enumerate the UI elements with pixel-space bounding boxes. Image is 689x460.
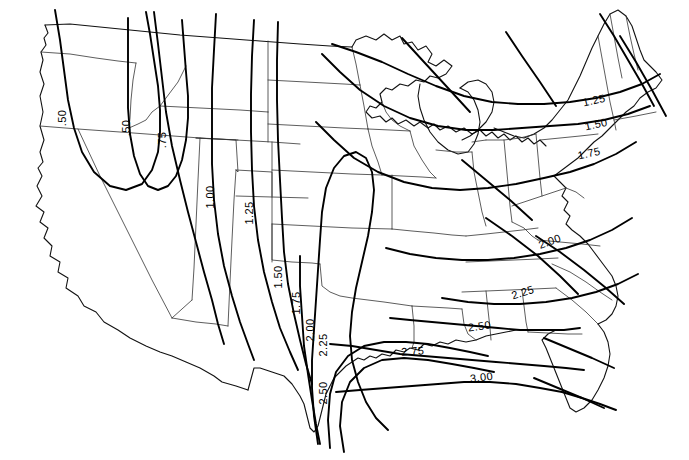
contour-label-text: 1.25	[582, 92, 607, 109]
border-ok-tx	[320, 264, 412, 306]
border-nj-de	[566, 188, 584, 198]
border-nv-ut	[192, 138, 200, 300]
contour-label: 1.25	[243, 201, 255, 224]
contour-label: 1.75	[290, 291, 302, 314]
contour-lines-group	[55, 10, 666, 452]
contour-label: 2.50	[467, 318, 491, 333]
lake-huron-outline	[460, 80, 494, 140]
contour-label: 1.50	[584, 116, 609, 133]
border-or-ca-nv	[40, 126, 238, 140]
border-pa-ny	[540, 134, 598, 140]
contour-label: 2.50	[317, 381, 329, 404]
lake-michigan-outline	[418, 84, 480, 154]
contour-label-text: 1.50	[584, 116, 609, 133]
border-or-id	[129, 63, 136, 128]
florida-outline	[542, 324, 610, 412]
contour-label-text: 2.75	[401, 344, 425, 358]
contour-label: 2.00	[537, 232, 563, 251]
contour-label-text: 2.00	[304, 318, 316, 341]
border-ms-al	[486, 291, 491, 340]
contour-label: 2.25	[317, 333, 329, 356]
contour-label: 1.00	[204, 185, 216, 208]
contour-label: 2.00	[304, 318, 316, 341]
west-coast-outline	[36, 25, 248, 390]
border-ga-fl	[528, 332, 582, 334]
border-id-mt	[129, 66, 186, 128]
border-ia-il	[410, 131, 436, 178]
atlantic-coast-outline	[554, 176, 618, 324]
contour-1-00	[212, 14, 254, 360]
border-wi-il	[436, 150, 472, 152]
contour-label-text: .50	[56, 110, 68, 127]
border-ar-la	[412, 306, 462, 309]
border-oh-pa	[536, 134, 542, 196]
border-in-oh	[504, 140, 512, 222]
border-ok-tx-panhandle	[272, 224, 320, 264]
northern-border-outline	[45, 24, 352, 47]
contour-3-00	[336, 382, 616, 410]
map-canvas: .50 .50 .75 1.00 1.25 1.50 1.75 2.00	[0, 0, 689, 460]
contour-label: 1.75	[577, 145, 602, 162]
border-ca-az	[172, 318, 228, 326]
contour-label: 1.25	[582, 92, 607, 109]
contour-label-text: 1.50	[272, 265, 284, 288]
contour-label: 1.50	[272, 265, 284, 288]
contour-label-text: 1.75	[577, 145, 602, 162]
border-mi-in	[472, 140, 486, 142]
state-borders-group	[40, 14, 656, 348]
contour-label-text: 2.50	[467, 318, 491, 333]
contour-diagonal-ne-7	[506, 32, 556, 106]
border-ne-ks	[272, 170, 382, 175]
contour-label-text: 1.75	[290, 291, 302, 314]
border-mo-ar	[392, 229, 466, 236]
contour-diagonal-se-2	[534, 378, 604, 408]
contour-label-text: 2.50	[317, 381, 329, 404]
contour-label-text: 1.00	[204, 185, 216, 208]
contour-label-text: 1.25	[243, 201, 255, 224]
contour-1-25	[251, 20, 298, 370]
border-mn-ia	[368, 129, 410, 131]
border-nv-az	[172, 300, 192, 318]
contour-label-text: 2.00	[537, 232, 563, 251]
contour-1-25-ne	[332, 44, 660, 104]
contour-label: .50	[56, 110, 68, 127]
contour-label: .50	[120, 120, 132, 137]
border-wv-pa	[512, 188, 566, 206]
contour-label-text: .50	[120, 120, 132, 137]
contour-label-text: 2.25	[317, 333, 329, 356]
contour-0-50-a	[55, 10, 160, 190]
border-wa-or	[41, 52, 136, 63]
border-ca-nv	[78, 129, 172, 318]
border-ks-ok	[272, 224, 392, 229]
contour-diagonal-se-1	[544, 338, 614, 368]
contour-label: 2.75	[401, 344, 425, 358]
contour-label-text: .75	[156, 132, 168, 149]
us-contour-map-figure: .50 .50 .75 1.00 1.25 1.50 1.75 2.00	[0, 0, 689, 460]
border-ut-wy	[196, 138, 238, 172]
border-nd-sd	[268, 80, 360, 85]
contour-label: .75	[156, 132, 168, 149]
